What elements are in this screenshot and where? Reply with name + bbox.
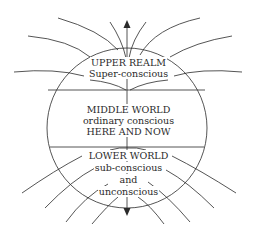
upper-realm-title: UPPER REALM [0, 57, 257, 68]
upper-realm-subtitle: Super-conscious [0, 68, 257, 79]
upper-field-lines [14, 18, 242, 90]
middle-world-line-1: ordinary conscious [0, 115, 257, 126]
down-arrow-icon [124, 208, 131, 216]
lower-world-line-2: and [0, 174, 257, 185]
lower-world-title: LOWER WORLD [0, 150, 257, 161]
lower-world-line-1: sub-conscious [0, 162, 257, 173]
middle-world-line-2: HERE AND NOW [0, 126, 257, 137]
up-arrow-icon [124, 20, 131, 28]
lower-world-line-3: unconscious [0, 186, 257, 197]
middle-world-title: MIDDLE WORLD [0, 104, 257, 115]
